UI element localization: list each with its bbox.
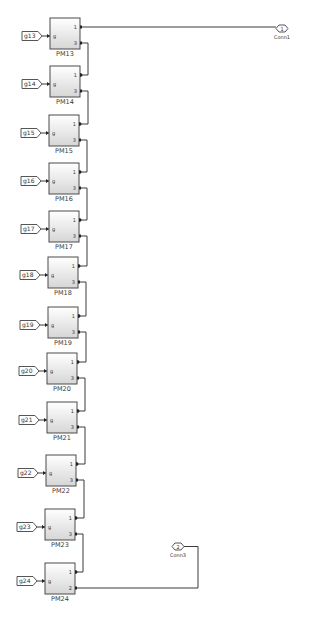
- tag-label: g15: [23, 129, 35, 137]
- block-pm14[interactable]: PM14g13: [50, 66, 82, 106]
- from-tag-g13[interactable]: g13: [22, 32, 42, 41]
- input-port-label: g: [52, 130, 55, 137]
- block-pm15[interactable]: PM15g13: [49, 115, 81, 155]
- block-pm16[interactable]: PM16g13: [49, 163, 81, 203]
- port-marker-icon: [77, 377, 79, 380]
- tag-label: g18: [22, 271, 34, 279]
- port-marker-icon: [79, 123, 81, 126]
- tag-label: g23: [19, 523, 31, 531]
- input-port-label: g: [48, 524, 51, 531]
- output-port-label: 3: [70, 477, 73, 483]
- block-pm19[interactable]: PM19g13: [48, 307, 80, 347]
- port-marker-icon: [80, 26, 82, 29]
- output-port-label: 1: [74, 72, 77, 78]
- block-pm13[interactable]: PM13g13: [50, 18, 82, 58]
- conn-label: Conn1: [274, 34, 290, 40]
- output-port-label: 1: [72, 263, 75, 269]
- input-port-label: g: [52, 226, 55, 233]
- chain-line: [79, 332, 86, 362]
- pm-blocks: PM13g13g13PM14g13g14PM15g13g15PM16g13g16…: [17, 18, 82, 603]
- tag-label: g20: [21, 367, 33, 375]
- input-port-label: g: [53, 33, 56, 40]
- tag-label: g13: [24, 32, 36, 40]
- block-label: PM13: [56, 50, 74, 58]
- port-marker-icon: [78, 265, 80, 268]
- block-label: PM14: [56, 98, 74, 106]
- input-port-label: g: [52, 178, 55, 185]
- from-tag-g24[interactable]: g24: [17, 577, 37, 586]
- port-marker-icon: [80, 74, 82, 77]
- input-port-label: g: [49, 470, 52, 477]
- block-label: PM18: [54, 289, 72, 297]
- output-port-label: 3: [74, 88, 77, 94]
- conn-port-conn3[interactable]: 2Conn3: [170, 543, 186, 558]
- block-label: PM22: [52, 487, 70, 495]
- from-tag-g15[interactable]: g15: [21, 129, 41, 138]
- port-marker-icon: [77, 410, 79, 413]
- block-pm17[interactable]: PM17g13: [49, 211, 81, 251]
- input-port-label: g: [50, 368, 53, 375]
- port-marker-icon: [77, 426, 79, 429]
- from-tag-g14[interactable]: g14: [22, 80, 42, 89]
- simulink-diagram-canvas[interactable]: PM13g13g13PM14g13g14PM15g13g15PM16g13g16…: [0, 0, 311, 623]
- output-port-label: 1: [73, 169, 76, 175]
- block-label: PM17: [55, 243, 73, 251]
- from-tag-g22[interactable]: g22: [18, 469, 38, 478]
- tag-label: g19: [22, 321, 34, 329]
- chain-line: [78, 427, 85, 464]
- tag-label: g16: [23, 177, 35, 185]
- tag-label: g21: [21, 416, 33, 424]
- output-port-label: 3: [71, 424, 74, 430]
- conn-number: 2: [176, 544, 179, 550]
- from-tag-g23[interactable]: g23: [17, 523, 37, 532]
- output-port-label: 3: [72, 329, 75, 335]
- chain-line: [80, 282, 86, 316]
- block-pm24[interactable]: PM24g12: [45, 563, 77, 603]
- port-marker-icon: [79, 235, 81, 238]
- port-marker-icon: [78, 281, 80, 284]
- block-pm22[interactable]: PM22g13: [46, 455, 78, 495]
- input-port-label: g: [50, 417, 53, 424]
- port-marker-icon: [77, 361, 79, 364]
- chain-line: [77, 534, 83, 572]
- chain-line: [79, 378, 85, 411]
- output-port-label: 1: [73, 121, 76, 127]
- from-tag-g16[interactable]: g16: [21, 177, 41, 186]
- chain-line: [81, 188, 87, 220]
- output-port-label: 3: [72, 279, 75, 285]
- block-pm18[interactable]: PM18g13: [48, 257, 80, 297]
- from-tag-g19[interactable]: g19: [20, 321, 40, 330]
- chain-line: [80, 236, 87, 266]
- port-marker-icon: [78, 315, 80, 318]
- output-port-label: 1: [73, 217, 76, 223]
- conn-number: 1: [280, 26, 283, 32]
- port-marker-icon: [75, 571, 77, 574]
- from-tag-g20[interactable]: g20: [19, 367, 39, 376]
- block-label: PM19: [54, 339, 72, 347]
- output-port-label: 1: [69, 569, 72, 575]
- block-pm21[interactable]: PM21g13: [47, 402, 79, 442]
- output-port-label: 1: [69, 515, 72, 521]
- port-marker-icon: [78, 331, 80, 334]
- block-label: PM24: [51, 595, 69, 603]
- input-port-label: g: [51, 272, 54, 279]
- port-marker-icon: [80, 90, 82, 93]
- block-label: PM20: [53, 385, 71, 393]
- output-port-label: 3: [74, 40, 77, 46]
- port-marker-icon: [79, 171, 81, 174]
- block-label: PM23: [51, 541, 69, 549]
- block-label: PM21: [53, 434, 71, 442]
- tag-label: g17: [23, 225, 35, 233]
- block-pm20[interactable]: PM20g13: [47, 353, 79, 393]
- chain-line: [81, 140, 87, 172]
- from-tag-g17[interactable]: g17: [21, 225, 41, 234]
- output-port-label: 1: [71, 359, 74, 365]
- from-tag-g21[interactable]: g21: [19, 416, 39, 425]
- from-tag-g18[interactable]: g18: [20, 271, 40, 280]
- output-port-label: 3: [69, 531, 72, 537]
- port-marker-icon: [79, 139, 81, 142]
- output-port-label: 1: [71, 408, 74, 414]
- conn-port-conn1[interactable]: 1Conn1: [274, 25, 290, 40]
- input-port-label: g: [51, 322, 54, 329]
- block-pm23[interactable]: PM23g13: [45, 509, 77, 549]
